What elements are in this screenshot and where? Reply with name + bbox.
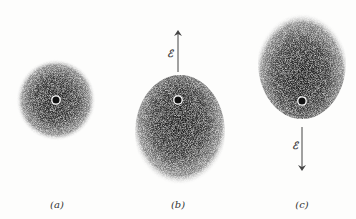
electron-cloud-b	[135, 75, 225, 191]
panel-label-a: (a)	[50, 199, 64, 210]
panel-b	[135, 33, 225, 191]
nucleus-c	[298, 97, 306, 105]
panel-label-b: (b)	[171, 199, 185, 210]
panel-label-c: (c)	[295, 199, 308, 210]
panel-a	[16, 59, 96, 141]
field-symbol-b: ℰ	[167, 48, 173, 59]
nucleus-b	[174, 96, 182, 104]
panel-c	[258, 5, 346, 168]
figure-canvas	[0, 0, 356, 219]
field-symbol-c: ℰ	[292, 140, 298, 151]
nucleus-a	[52, 96, 60, 104]
atom-polarization-figure: (a) (b) (c) ℰ ℰ	[0, 0, 356, 219]
